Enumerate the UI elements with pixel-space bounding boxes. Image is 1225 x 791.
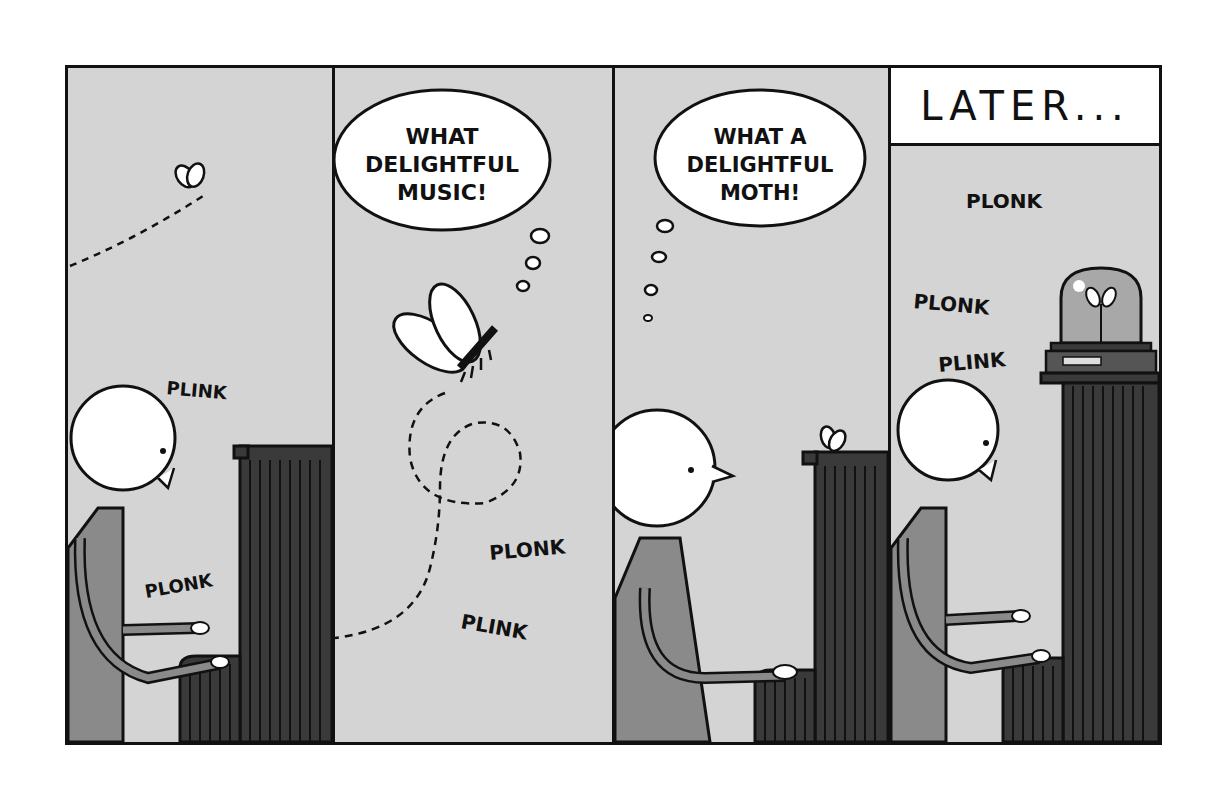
sfx-plonk: PLONK	[488, 534, 567, 565]
sfx-plink: PLINK	[937, 347, 1007, 377]
bubble-line-1: WHAT A	[713, 125, 807, 149]
moth-icon	[172, 161, 208, 191]
comic-strip: PLINK PLONK WHAT DELIGHTFUL MUSIC! PLONK	[65, 65, 1162, 745]
flight-path	[335, 393, 521, 638]
sfx-plink: PLINK	[459, 609, 531, 645]
bubble-line-3: MOTH!	[720, 181, 800, 205]
panel-2: WHAT DELIGHTFUL MUSIC! PLONK PLINK	[335, 68, 612, 742]
moth-icon	[819, 425, 849, 454]
caption-box: LATER...	[891, 68, 1159, 146]
panel-3-art: WHAT A DELIGHTFUL MOTH!	[615, 68, 888, 742]
panel-2-art: WHAT DELIGHTFUL MUSIC! PLONK PLINK	[335, 68, 612, 742]
bubble-line-2: DELIGHTFUL	[365, 152, 519, 177]
bubble-line-1: WHAT	[405, 124, 478, 149]
sfx-plonk: PLONK	[143, 569, 215, 602]
flight-path	[70, 196, 203, 266]
sfx-plonk: PLONK	[913, 289, 992, 320]
panel-4: PLONK PLONK PLINK LATER...	[891, 68, 1159, 742]
moth-icon	[384, 276, 495, 383]
panel-3: WHAT A DELIGHTFUL MOTH!	[615, 68, 888, 742]
sfx-plonk: PLONK	[966, 189, 1043, 213]
panel-1: PLINK PLONK	[68, 68, 332, 742]
piano	[1003, 373, 1159, 742]
piano	[755, 452, 888, 742]
bubble-line-3: MUSIC!	[397, 180, 487, 205]
panel-4-art: PLONK PLONK PLINK	[891, 68, 1159, 742]
bell-jar	[1046, 268, 1156, 373]
piano	[180, 446, 332, 742]
bubble-line-2: DELIGHTFUL	[687, 153, 834, 177]
sfx-plink: PLINK	[166, 377, 229, 403]
panel-1-art: PLINK PLONK	[68, 68, 332, 742]
